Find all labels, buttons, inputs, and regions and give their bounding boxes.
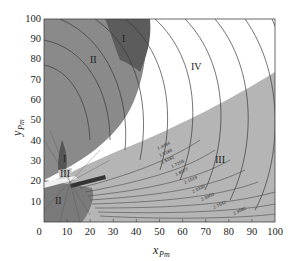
y-tick: 80 [31, 53, 42, 64]
y-tick: 40 [31, 135, 42, 146]
region-label-ii-bottom: II [55, 195, 62, 206]
region-label-ii: II [90, 54, 97, 65]
x-label-sub: Pm [158, 250, 170, 259]
contour-chart: I II IV III I III II 1.4494 1.5186 1.618… [0, 0, 295, 261]
y-label-main: y [10, 130, 24, 137]
x-tick: 0 [36, 226, 41, 237]
y-tick: 30 [31, 155, 42, 166]
y-tick: 50 [31, 114, 42, 125]
x-tick: 20 [85, 226, 96, 237]
region-label-i-small: I [63, 153, 66, 164]
x-tick: 90 [247, 226, 258, 237]
region-label-iii: III [215, 154, 225, 165]
y-tick: 20 [31, 175, 42, 186]
region-label-i-top: I [122, 33, 125, 44]
x-tick: 10 [62, 226, 73, 237]
region-label-iv: IV [191, 61, 202, 72]
x-label-main: x [152, 243, 159, 257]
x-tick: 100 [267, 226, 283, 237]
region-label-iii-small: III [60, 168, 70, 179]
y-tick: 100 [25, 13, 41, 24]
plot-area: I II IV III I III II 1.4494 1.5186 1.618… [44, 19, 293, 222]
x-axis-ticks: 0 10 20 30 40 50 60 70 80 90 100 [36, 226, 283, 237]
y-tick: 70 [31, 74, 42, 85]
x-tick: 30 [108, 226, 119, 237]
x-axis-label: x Pm [152, 243, 170, 259]
x-tick: 70 [200, 226, 211, 237]
x-tick: 80 [224, 226, 235, 237]
y-label-sub: Pm [17, 119, 26, 131]
x-tick: 50 [154, 226, 165, 237]
y-tick: 10 [31, 196, 42, 207]
y-axis-ticks: 10 20 30 40 50 60 70 80 90 100 [25, 13, 41, 207]
y-axis-label: y Pm [10, 119, 26, 137]
y-tick: 60 [31, 94, 42, 105]
x-tick: 40 [131, 226, 142, 237]
x-tick: 60 [177, 226, 188, 237]
y-tick: 90 [31, 33, 42, 44]
